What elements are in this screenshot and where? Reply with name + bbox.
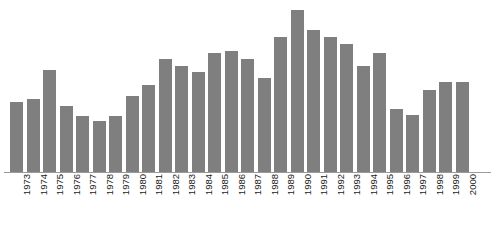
bars-layer — [0, 0, 495, 173]
bar — [324, 37, 337, 173]
bar — [390, 109, 403, 173]
bar — [27, 99, 40, 173]
x-tick-label: 1975 — [54, 174, 65, 234]
bar — [109, 116, 122, 173]
bar — [175, 66, 188, 173]
bar — [126, 96, 139, 173]
bar — [258, 78, 271, 173]
x-tick-label: 1977 — [87, 174, 98, 234]
x-tick-label: 1998 — [434, 174, 445, 234]
x-tick-label: 1973 — [21, 174, 32, 234]
bar — [208, 53, 221, 173]
bar — [456, 82, 469, 173]
x-axis-tick-labels: 1973197419751976197719781979198019811982… — [0, 173, 495, 240]
bar — [43, 70, 56, 173]
bar — [357, 66, 370, 173]
bar — [439, 82, 452, 173]
bar-chart: 1973197419751976197719781979198019811982… — [0, 0, 495, 240]
bar — [307, 30, 320, 173]
x-tick-label: 1986 — [236, 174, 247, 234]
x-tick-label: 1990 — [302, 174, 313, 234]
x-tick-label: 1989 — [285, 174, 296, 234]
x-tick-label: 1995 — [384, 174, 395, 234]
bar — [423, 90, 436, 173]
bar — [60, 106, 73, 173]
bar — [340, 44, 353, 173]
x-tick-label: 1988 — [269, 174, 280, 234]
bar — [406, 115, 419, 173]
x-tick-label: 1980 — [137, 174, 148, 234]
x-tick-label: 1999 — [450, 174, 461, 234]
x-tick-label: 1994 — [368, 174, 379, 234]
x-tick-label: 1992 — [335, 174, 346, 234]
x-tick-label: 1981 — [153, 174, 164, 234]
x-tick-label: 1978 — [104, 174, 115, 234]
x-tick-label: 2000 — [467, 174, 478, 234]
x-tick-label: 1985 — [219, 174, 230, 234]
bar — [159, 59, 172, 173]
x-tick-label: 1996 — [401, 174, 412, 234]
x-tick-label: 1993 — [351, 174, 362, 234]
bar — [225, 51, 238, 173]
bar — [76, 116, 89, 173]
bar — [241, 59, 254, 173]
x-tick-label: 1987 — [252, 174, 263, 234]
bar — [142, 85, 155, 173]
bar — [373, 53, 386, 173]
x-tick-label: 1984 — [203, 174, 214, 234]
plot-area — [0, 0, 495, 173]
x-tick-label: 1991 — [318, 174, 329, 234]
x-tick-label: 1976 — [71, 174, 82, 234]
bar — [274, 37, 287, 173]
x-tick-label: 1974 — [38, 174, 49, 234]
bar — [291, 10, 304, 173]
x-tick-label: 1982 — [170, 174, 181, 234]
bar — [10, 102, 23, 173]
x-tick-label: 1997 — [417, 174, 428, 234]
x-tick-label: 1983 — [186, 174, 197, 234]
x-tick-label: 1979 — [120, 174, 131, 234]
bar — [93, 121, 106, 173]
bar — [192, 72, 205, 173]
